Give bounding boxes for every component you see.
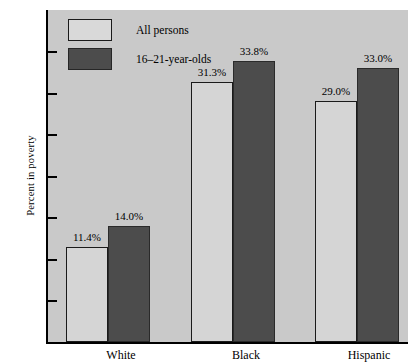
legend-swatch-16-21-year-olds [68, 48, 112, 70]
bar-value-black-16-21-year-olds: 33.8% [226, 46, 282, 57]
bar-value-white-all-persons: 11.4% [59, 232, 115, 243]
legend-label-16-21-year-olds: 16–21-year-olds [136, 54, 211, 66]
bar-black-all-persons[interactable] [191, 82, 233, 342]
y-tick-mark-30 [48, 93, 57, 95]
bar-value-hispanic-16-21-year-olds: 33.0% [350, 53, 406, 64]
bar-value-hispanic-all-persons: 29.0% [308, 86, 364, 97]
legend-label-all-persons: All persons [136, 25, 189, 37]
y-tick-mark-5 [48, 300, 57, 302]
bar-chart: Percent in poverty 40 35 30 25 20 15 10 … [0, 0, 420, 363]
x-category-label-black: Black [201, 348, 291, 363]
legend-swatch-all-persons [68, 19, 112, 41]
bar-white-16-21-year-olds[interactable] [108, 226, 150, 342]
y-tick-mark-35 [48, 51, 57, 53]
y-axis-title: Percent in poverty [25, 86, 36, 266]
y-tick-mark-10 [48, 259, 57, 261]
bar-value-white-16-21-year-olds: 14.0% [101, 211, 157, 222]
bar-white-all-persons[interactable] [66, 247, 108, 342]
bar-black-16-21-year-olds[interactable] [233, 61, 275, 342]
bar-value-black-all-persons: 31.3% [184, 67, 240, 78]
y-tick-mark-25 [48, 134, 57, 136]
plot-area: All persons 16–21-year-olds 11.4% 14.0% … [46, 10, 408, 344]
x-category-label-hispanic: Hispanic [324, 348, 414, 363]
bar-hispanic-16-21-year-olds[interactable] [357, 68, 399, 342]
y-tick-mark-20 [48, 176, 57, 178]
y-tick-mark-15 [48, 217, 57, 219]
bar-hispanic-all-persons[interactable] [315, 101, 357, 342]
x-category-label-white: White [76, 348, 166, 363]
